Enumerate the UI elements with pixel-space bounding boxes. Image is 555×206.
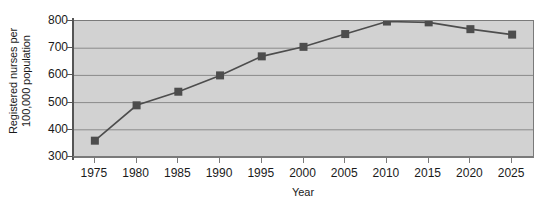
x-axis-tick-label: 2000 [280,167,326,179]
x-axis-tick-mark [177,157,178,163]
data-point-marker [508,31,516,39]
y-axis-tick-label: 700 [48,41,68,53]
y-axis-tick-label: 400 [48,123,68,135]
x-axis-tick-mark [136,157,137,163]
x-axis-tick-mark [261,157,262,163]
x-axis-tick-label: 2010 [363,167,409,179]
data-point-marker [300,43,308,51]
y-axis-tick-mark [67,20,73,21]
y-axis-tick-labels: 300400500600700800 [34,0,68,206]
data-line [95,22,512,141]
x-axis-tick-label: 2025 [488,167,534,179]
data-point-marker [425,21,433,26]
line-chart: Registered nurses per 100,000 population… [0,0,555,206]
y-axis-title-line-1: Registered nurses per [7,28,20,134]
y-axis-tick-label: 300 [48,150,68,162]
y-axis-tick-mark [67,102,73,103]
y-axis-tick-label: 600 [48,68,68,80]
y-axis-tick-mark [67,47,73,48]
x-axis-tick-label: 1985 [154,167,200,179]
y-axis-tick-mark [67,74,73,75]
gridlines [74,48,533,130]
y-axis-tick-label: 500 [48,96,68,108]
x-axis-tick-label: 1980 [113,167,159,179]
x-axis-tick-label: 2005 [321,167,367,179]
x-axis-tick-label: 1990 [196,167,242,179]
data-point-marker [216,71,224,79]
x-axis-tick-mark [428,157,429,163]
x-axis-tick-mark [511,157,512,163]
data-point-marker [341,30,349,38]
x-axis-tick-mark [344,157,345,163]
y-axis-tick-mark [67,156,73,157]
data-point-marker [258,52,266,60]
data-point-marker [466,25,474,33]
data-point-marker [91,137,99,145]
plot-area [73,20,534,158]
x-axis-tick-label: 1975 [71,167,117,179]
y-axis-tick-mark [67,129,73,130]
x-axis-tick-label: 1995 [238,167,284,179]
y-axis-spine [72,18,74,160]
x-axis-title: Year [73,186,533,198]
x-axis-tick-mark [303,157,304,163]
y-axis-title-line-2: 100,000 population [20,28,33,134]
data-markers [91,21,516,145]
plot-svg [74,21,533,157]
x-axis-tick-mark [469,157,470,163]
x-axis-tick-label: 2020 [446,167,492,179]
x-axis-tick-mark [386,157,387,163]
data-point-marker [174,88,182,96]
data-point-marker [133,101,141,109]
x-axis-tick-label: 2015 [405,167,451,179]
x-axis-tick-mark [219,157,220,163]
data-point-marker [383,21,391,26]
x-axis-tick-mark [94,157,95,163]
y-axis-tick-label: 800 [48,14,68,26]
